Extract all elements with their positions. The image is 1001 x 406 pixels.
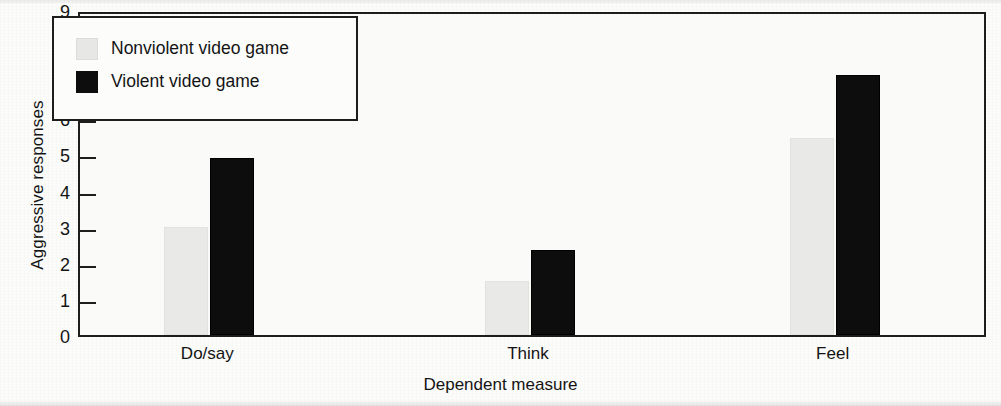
x-axis-title: Dependent measure: [0, 375, 1001, 395]
y-tick-label: 1: [46, 292, 70, 310]
legend: Nonviolent video game Violent video game: [52, 16, 358, 121]
x-tick-label: Feel: [816, 344, 849, 364]
bar-violent-do-say: [210, 158, 254, 335]
bar-nonviolent-think: [485, 281, 529, 335]
x-tick-label: Think: [507, 344, 549, 364]
y-tick-label: 0: [46, 328, 70, 346]
bar-nonviolent-do-say: [164, 227, 208, 335]
bar-violent-think: [531, 250, 575, 335]
scan-edge-top: [0, 0, 1001, 3]
y-tick-label: 3: [46, 220, 70, 238]
x-axis-category-labels: Do/sayThinkFeel: [78, 344, 986, 370]
x-tick-label: Do/say: [181, 344, 234, 364]
y-tick-label: 5: [46, 147, 70, 165]
bar-nonviolent-feel: [790, 138, 834, 335]
y-tick-mark: [80, 157, 96, 159]
y-tick-label: 4: [46, 184, 70, 202]
y-tick-mark: [80, 266, 96, 268]
figure-page: Aggressive responses 0123456789 Do/sayTh…: [0, 0, 1001, 406]
y-tick-label: 2: [46, 256, 70, 274]
legend-entry-nonviolent: Nonviolent video game: [76, 32, 356, 65]
y-tick-mark: [80, 194, 96, 196]
legend-label-nonviolent: Nonviolent video game: [111, 38, 289, 59]
legend-label-violent: Violent video game: [111, 71, 260, 92]
y-tick-mark: [80, 121, 96, 123]
bar-violent-feel: [836, 75, 880, 335]
y-axis-title: Aggressive responses: [28, 55, 48, 315]
legend-swatch-nonviolent-icon: [76, 38, 98, 60]
y-tick-mark: [80, 230, 96, 232]
y-tick-mark: [80, 302, 96, 304]
legend-entry-violent: Violent video game: [76, 65, 356, 98]
legend-swatch-violent-icon: [76, 71, 98, 93]
scan-edge-bottom: [0, 400, 1001, 406]
